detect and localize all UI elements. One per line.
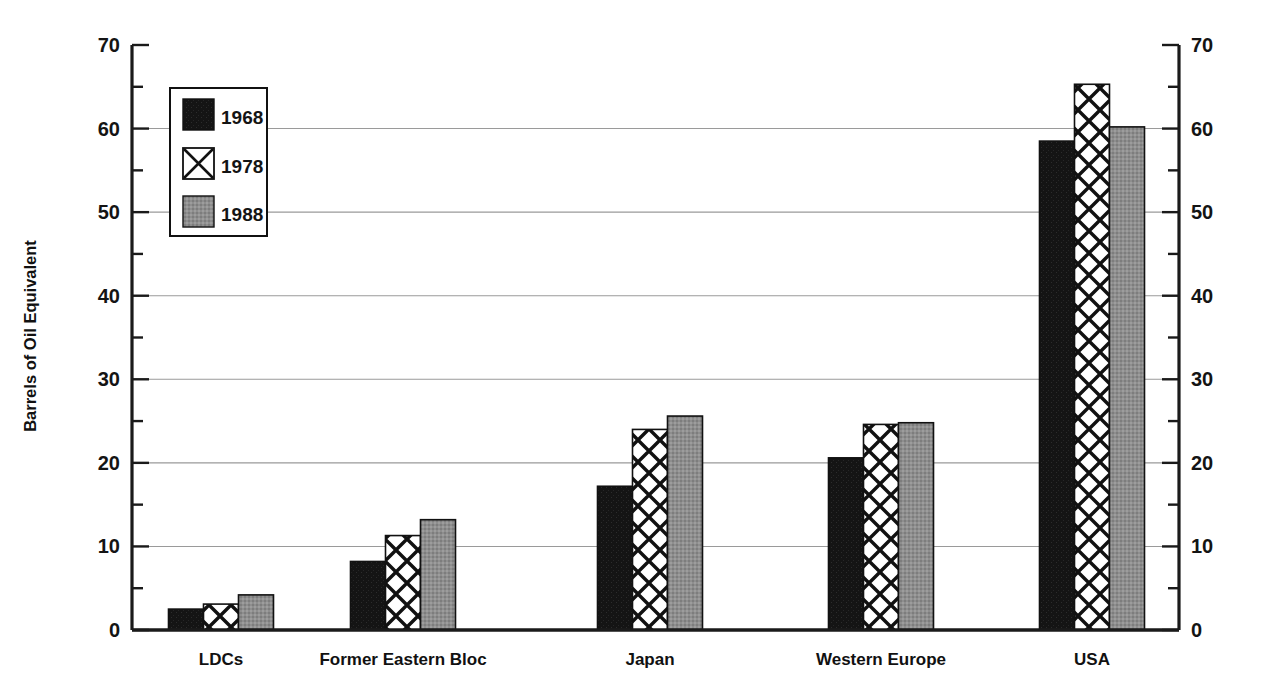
y-axis-title: Barrels of Oil Equivalent (21, 240, 39, 432)
x-label-japan: Japan (625, 650, 674, 669)
y-tick-label-right-70: 70 (1191, 34, 1213, 56)
y-tick-label-left-30: 30 (98, 368, 120, 390)
bar-japan-1988 (668, 416, 703, 630)
y-axis-title-group: Barrels of Oil Equivalent (21, 240, 39, 432)
bar-western-europe-1968 (829, 458, 864, 630)
y-tick-label-left-70: 70 (98, 34, 120, 56)
y-tick-label-left-60: 60 (98, 118, 120, 140)
y-tick-label-right-40: 40 (1191, 285, 1213, 307)
bar-western-europe-1978 (864, 424, 899, 630)
y-tick-label-right-30: 30 (1191, 368, 1213, 390)
x-label-usa: USA (1074, 650, 1110, 669)
bar-chart: 010203040506070 010203040506070 LDCsForm… (0, 0, 1267, 698)
y-tick-label-right-60: 60 (1191, 118, 1213, 140)
bar-group-usa (1040, 84, 1145, 630)
y-tick-label-left-10: 10 (98, 535, 120, 557)
y-tick-label-left-0: 0 (109, 619, 120, 641)
y-tick-label-right-10: 10 (1191, 535, 1213, 557)
x-label-western-europe: Western Europe (816, 650, 946, 669)
bar-former-eastern-bloc-1968 (351, 561, 386, 630)
bar-usa-1968 (1040, 141, 1075, 630)
y-tick-label-right-50: 50 (1191, 201, 1213, 223)
y-tick-label-left-40: 40 (98, 285, 120, 307)
bar-ldcs-1988 (239, 595, 274, 630)
bar-ldcs-1978 (204, 604, 239, 630)
bar-ldcs-1968 (169, 609, 204, 630)
chart-container: 010203040506070 010203040506070 LDCsForm… (0, 0, 1267, 698)
y-tick-label-left-50: 50 (98, 201, 120, 223)
legend-label-1988: 1988 (221, 204, 263, 225)
bar-usa-1978 (1075, 84, 1110, 630)
legend-label-1978: 1978 (221, 156, 263, 177)
bar-former-eastern-bloc-1978 (386, 536, 421, 630)
y-tick-label-left-20: 20 (98, 452, 120, 474)
y-tick-label-right-0: 0 (1191, 619, 1202, 641)
y-tick-label-right-20: 20 (1191, 452, 1213, 474)
legend-swatch-1988 (183, 196, 214, 227)
x-label-ldcs: LDCs (199, 650, 243, 669)
chart-legend: 1968 1978 1988 (170, 88, 267, 236)
bar-western-europe-1988 (899, 423, 934, 630)
legend-swatch-1968 (183, 99, 214, 130)
legend-label-1968: 1968 (221, 107, 263, 128)
bar-japan-1978 (633, 429, 668, 630)
x-label-former-eastern-bloc: Former Eastern Bloc (319, 650, 486, 669)
bar-japan-1968 (598, 486, 633, 630)
bar-usa-1988 (1110, 127, 1145, 630)
bar-former-eastern-bloc-1988 (421, 520, 456, 630)
